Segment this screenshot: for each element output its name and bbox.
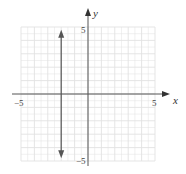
- x-tick-min: −5: [14, 98, 24, 108]
- y-axis-arrow-icon: [85, 8, 91, 16]
- y-tick-min: −5: [76, 156, 86, 166]
- coordinate-plane: x y −5 5 5 −5: [0, 0, 186, 174]
- y-axis-label: y: [92, 7, 98, 19]
- x-tick-max: 5: [152, 98, 157, 108]
- y-tick-max: 5: [81, 25, 86, 35]
- x-axis-arrow-icon: [162, 91, 170, 97]
- x-axis-label: x: [172, 94, 178, 106]
